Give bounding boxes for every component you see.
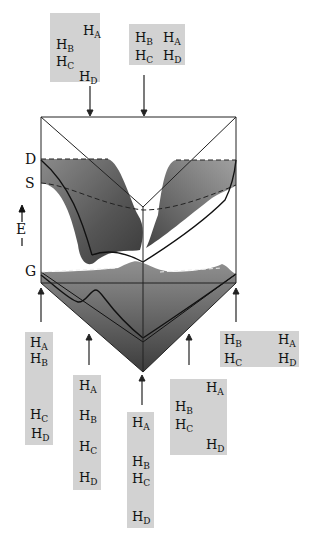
atom-label-top-left-d: HD (79, 70, 98, 86)
atom-label-bottom-far-left-d: HD (31, 427, 50, 443)
atom-label-top-right-a: HA (163, 31, 181, 47)
ground-state-surface (41, 261, 236, 372)
atom-label-right-c: HC (224, 352, 242, 368)
atom-label-top-right-b: HB (135, 31, 153, 47)
atom-label-right-b: HB (224, 333, 242, 349)
atom-label-bottom-far-left-a: HA (30, 336, 48, 352)
excited-surface-right (146, 160, 236, 248)
atom-label-bottom-left-b: HB (79, 409, 97, 425)
arrow-top-left (87, 86, 93, 116)
arrow-right (233, 288, 239, 322)
atom-label-top-left-b: HB (56, 38, 74, 54)
atom-label-bottom-center-d: HD (132, 510, 151, 526)
atom-label-top-left-a: HA (83, 24, 101, 40)
arrow-top-right (141, 75, 147, 116)
level-label-s: S (25, 176, 35, 190)
atom-label-bottom-right-a: HA (206, 381, 224, 397)
arrow-bottom-center (139, 375, 145, 405)
atom-label-top-right-d: HD (163, 49, 182, 65)
level-label-g: G (25, 264, 36, 278)
arrow-bottom-right (186, 334, 192, 365)
energy-axis-label: E (16, 222, 26, 236)
atom-label-right-a: HA (278, 333, 296, 349)
atom-label-bottom-right-b: HB (175, 400, 193, 416)
arrow-bottom-left (86, 334, 92, 365)
atom-label-bottom-center-c: HC (132, 472, 150, 488)
level-label-d: D (25, 152, 36, 166)
atom-label-bottom-left-a: HA (79, 379, 97, 395)
atom-label-bottom-far-left-c: HC (30, 408, 48, 424)
energy-surface-diagram (0, 0, 314, 540)
atom-label-top-right-c: HC (135, 49, 153, 65)
atom-label-bottom-right-d: HD (206, 438, 225, 454)
arrow-bottom-far-left (38, 288, 44, 322)
atom-label-bottom-left-c: HC (79, 440, 97, 456)
atom-label-bottom-far-left-b: HB (30, 352, 48, 368)
atom-label-right-d: HD (278, 352, 297, 368)
atom-label-bottom-right-c: HC (175, 418, 193, 434)
atom-label-bottom-left-d: HD (79, 471, 98, 487)
atom-label-top-left-c: HC (56, 55, 74, 71)
atom-label-bottom-center-b: HB (132, 455, 150, 471)
atom-label-bottom-center-a: HA (132, 416, 150, 432)
